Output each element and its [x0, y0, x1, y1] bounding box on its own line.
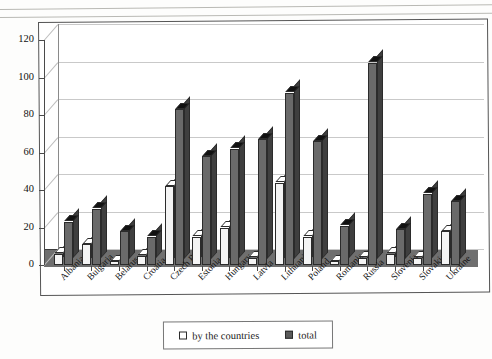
legend-item-total: total — [285, 329, 317, 340]
legend-swatch-dark — [285, 331, 293, 339]
legend-item-by-the-countries: by the countries — [179, 329, 259, 341]
y-axis-label: 40 — [8, 183, 34, 194]
y-axis-label: 0 — [8, 258, 34, 269]
y-axis-label: 60 — [8, 146, 34, 157]
y-axis-label: 100 — [8, 71, 34, 82]
scan-artifact-line — [0, 4, 492, 10]
legend-swatch-light — [179, 331, 187, 339]
legend-label-total: total — [298, 329, 317, 340]
scan-artifact-line — [0, 13, 492, 18]
chart-frame — [38, 18, 490, 296]
y-axis-label: 120 — [8, 33, 34, 44]
y-axis-label: 20 — [8, 221, 34, 232]
legend-label-by-the-countries: by the countries — [192, 329, 259, 340]
chart-legend: by the countries total — [163, 320, 333, 349]
y-axis-label: 80 — [8, 108, 34, 119]
